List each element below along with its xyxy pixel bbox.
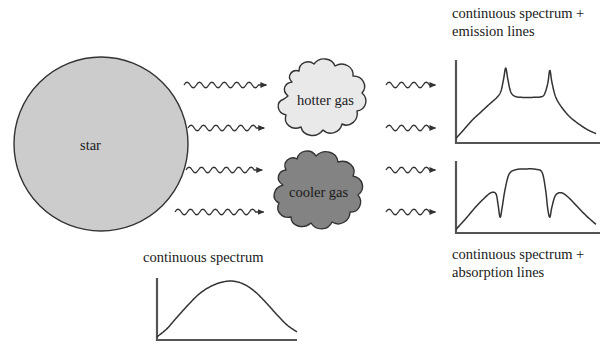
- wavy-ray-star-to-hotter-gas-1: [184, 82, 266, 88]
- absorption-curve: [456, 169, 596, 230]
- star-body: [14, 57, 188, 231]
- continuous-curve: [157, 281, 297, 337]
- emission-axes: [456, 60, 600, 143]
- emission-spectrum-chart: [456, 60, 600, 143]
- wavy-ray-hotter-gas-to-emission-2: [386, 125, 435, 131]
- wavy-ray-hotter-gas-to-emission-1: [386, 82, 435, 88]
- wavy-ray-cooler-gas-to-absorption-1: [386, 167, 435, 173]
- wavy-ray-star-to-cooler-gas-1: [186, 167, 262, 173]
- wavy-ray-cooler-gas-to-absorption-2: [386, 209, 435, 215]
- hotter-gas-label: hotter gas: [297, 92, 354, 109]
- absorption-spectrum-chart: [456, 161, 600, 233]
- emission-caption: continuous spectrum + emission lines: [452, 4, 606, 40]
- spectral-line-formation-diagram: star hotter gas cooler gas continuous sp…: [0, 0, 606, 357]
- continuous-spectrum-chart: [157, 278, 297, 340]
- absorption-axes: [456, 161, 600, 233]
- diagram-graphics: [0, 0, 606, 357]
- star-label: star: [80, 137, 101, 154]
- absorption-caption: continuous spectrum + absorption lines: [452, 245, 606, 281]
- continuous-axes: [157, 278, 297, 340]
- continuous-caption: continuous spectrum: [143, 248, 263, 266]
- cooler-gas-label: cooler gas: [289, 184, 348, 201]
- wavy-ray-star-to-hotter-gas-2: [188, 125, 264, 131]
- emission-curve: [456, 68, 596, 138]
- wavy-ray-star-to-cooler-gas-2: [175, 209, 264, 215]
